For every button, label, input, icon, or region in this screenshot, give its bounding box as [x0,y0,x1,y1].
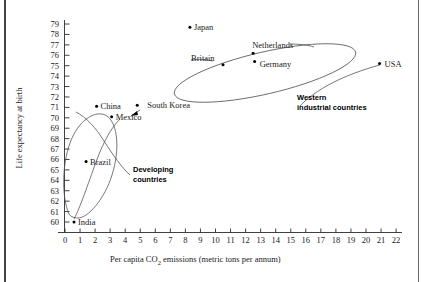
data-point-usa[interactable]: USA [378,59,402,69]
data-point-japan[interactable]: Japan [188,22,214,32]
western-industrial-countries-label: Western industrial countries [297,93,367,112]
y-axis-title: Life expectancy at birth [14,87,24,169]
y-tick-label: 78 [51,29,60,39]
y-tick-label: 75 [51,61,60,71]
data-point-label: Germany [260,59,292,69]
western-label-line2: industrial countries [297,103,367,112]
y-axis: 6061626364656667686970717273747576777879 [51,19,70,232]
western-label-line1: Western [297,93,327,102]
data-point-label: USA [385,59,403,69]
data-point-label: Brazil [90,157,111,167]
y-tick-label: 67 [51,144,60,154]
x-tick-label: 9 [198,235,202,245]
data-point-label: China [101,101,122,111]
developing-label-line1: Developing [133,165,174,174]
x-tick-label: 14 [271,235,280,245]
developing-label-line2: countries [133,175,167,184]
y-tick-label: 60 [51,217,60,227]
data-point-south-korea[interactable]: South Korea [136,100,190,110]
data-point-label: Mexico [116,112,142,122]
data-point-india[interactable]: India [73,217,96,227]
figure-container: 6061626364656667686970717273747576777879… [0,0,427,282]
x-tick-label: 15 [287,235,296,245]
x-tick-label: 4 [123,235,128,245]
scatter-plot: 6061626364656667686970717273747576777879… [0,0,427,282]
data-point-marker [253,60,256,63]
data-point-germany[interactable]: Germany [253,59,292,69]
data-point-marker [85,160,88,163]
x-tick-label: 2 [93,235,97,245]
x-tick-label: 17 [317,235,326,245]
x-axis: 012345678910111213141516171819202122 [58,229,402,246]
developing-countries-label: Developing countries [133,165,174,184]
y-tick-label: 65 [51,165,60,175]
y-tick-label: 79 [51,19,60,29]
y-tick-label: 73 [51,82,60,92]
data-point-marker [136,104,139,107]
y-tick-label: 66 [51,154,60,164]
data-point-china[interactable]: China [95,101,121,111]
x-tick-label: 16 [302,235,311,245]
data-point-label: Japan [194,22,214,32]
x-tick-label: 3 [108,235,112,245]
x-tick-label: 19 [347,235,356,245]
x-tick-group [65,229,396,233]
data-point-brazil[interactable]: Brazil [85,157,112,167]
y-tick-label: 74 [51,71,60,81]
y-tick-label: 61 [51,207,60,217]
data-point-marker [73,221,76,224]
y-tick-label: 71 [51,102,60,112]
y-tick-group [65,24,70,222]
y-tick-label: 62 [51,196,60,206]
data-point-group: IndiaBrazilChinaMexicoSouth KoreaJapanBr… [73,22,403,227]
x-axis-title: Per capita CO2 emissions (metric tons pe… [110,254,281,266]
y-tick-label: 69 [51,123,60,133]
x-tick-label: 21 [377,235,386,245]
data-point-marker [110,115,113,118]
y-tick-label: 63 [51,186,60,196]
data-point-netherlands[interactable]: Netherlands [252,40,294,55]
x-tick-label: 0 [63,235,67,245]
data-point-label: India [78,217,96,227]
data-point-marker [188,26,191,29]
x-tick-label: 5 [138,235,142,245]
x-axis-title-main: Per capita CO [110,254,158,264]
x-tick-label: 20 [362,235,371,245]
x-tick-label: 12 [241,235,250,245]
x-tick-label: 1 [78,235,82,245]
y-tick-label: 68 [51,134,60,144]
data-point-label: Netherlands [252,40,293,50]
y-tick-label: 70 [51,113,60,123]
x-tick-label: 7 [168,235,172,245]
y-tick-label: 77 [51,40,60,50]
y-tick-label: 64 [51,175,60,185]
data-point-marker [252,52,255,55]
x-tick-label: 18 [332,235,341,245]
y-tick-label: 76 [51,50,60,60]
data-point-marker [95,105,98,108]
x-axis-title-tail: emissions (metric tons per annum) [161,254,281,264]
x-tick-label: 8 [183,235,187,245]
data-point-marker [222,63,225,66]
x-tick-label: 11 [226,235,234,245]
x-tick-label-group: 012345678910111213141516171819202122 [63,235,400,245]
y-tick-label-group: 6061626364656667686970717273747576777879 [51,19,60,227]
x-tick-label: 22 [392,235,401,245]
data-point-marker [378,62,381,65]
x-tick-label: 10 [211,235,220,245]
x-tick-label: 13 [256,235,265,245]
data-point-mexico[interactable]: Mexico [110,112,141,122]
data-point-label: Britain [191,53,215,63]
x-tick-label: 6 [153,235,157,245]
y-tick-label: 72 [51,92,60,102]
data-point-label: South Korea [147,100,190,110]
